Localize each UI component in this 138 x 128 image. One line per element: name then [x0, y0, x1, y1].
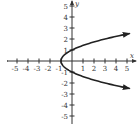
x-tick-label: 5 — [125, 65, 129, 73]
graph-plot: -5-4-3-2-112345-5-4-3-2-112345xy — [0, 0, 138, 128]
y-axis-label: y — [74, 0, 80, 8]
x-tick-label: 2 — [92, 65, 96, 73]
x-tick-label: 3 — [103, 65, 107, 73]
y-tick-label: -5 — [61, 113, 68, 121]
axes — [7, 1, 136, 124]
y-tick-label: 3 — [64, 25, 68, 33]
y-tick-label: -3 — [61, 91, 68, 99]
x-tick-label: -5 — [12, 65, 19, 73]
x-tick-label: -2 — [45, 65, 52, 73]
x-tick-label: -4 — [23, 65, 30, 73]
x-axis-label: x — [130, 52, 134, 60]
x-tick-label: 4 — [114, 65, 119, 73]
y-tick-label: -2 — [61, 80, 68, 88]
y-tick-label: 5 — [64, 3, 68, 11]
y-tick-label: 2 — [64, 36, 68, 44]
parabola-upper-branch — [61, 34, 130, 62]
x-tick-label: -3 — [34, 65, 41, 73]
x-tick-label: 1 — [81, 65, 85, 73]
y-tick-label: -4 — [61, 102, 68, 110]
y-tick-label: 4 — [64, 14, 69, 22]
